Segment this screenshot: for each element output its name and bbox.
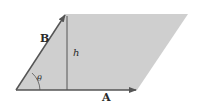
parallelogram-diagram: B h θ A <box>0 0 201 105</box>
height-label: h <box>73 47 79 58</box>
vector-a-label: A <box>101 91 111 104</box>
angle-label: θ <box>37 74 42 83</box>
vector-b-label: B <box>40 32 49 45</box>
